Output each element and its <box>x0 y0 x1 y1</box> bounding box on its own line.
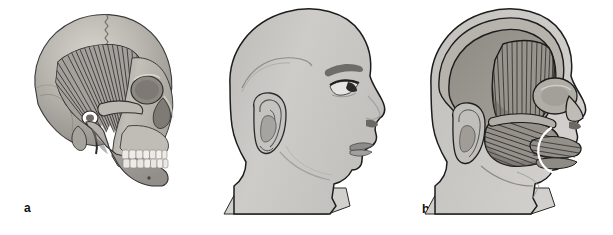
mental-foramen <box>147 176 150 179</box>
panel-a-skull-temporalis: a <box>0 0 204 235</box>
panel-label-a: a <box>24 202 31 214</box>
lips <box>350 143 373 156</box>
head-silhouette <box>230 9 385 214</box>
lower-teeth <box>123 159 168 168</box>
panel-c-head-masticatory-muscles: c <box>405 0 613 235</box>
anatomy-figure: a <box>0 0 613 235</box>
upper-teeth <box>122 150 167 159</box>
panel-b-head-profile: b <box>200 0 410 235</box>
nostril <box>569 122 581 130</box>
